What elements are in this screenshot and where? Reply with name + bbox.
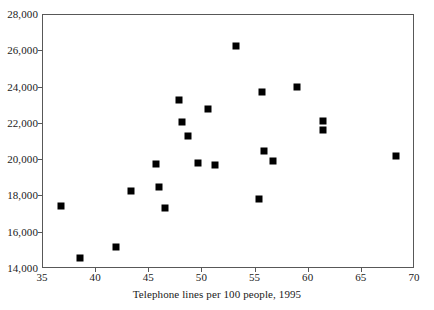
y-axis-tick-mark [38, 195, 43, 196]
data-point [195, 159, 202, 166]
x-axis-tick-labels: 3540455055606570 [0, 271, 434, 287]
x-axis-tick-label: 55 [249, 271, 260, 283]
data-point [233, 42, 240, 49]
data-point [176, 97, 183, 104]
y-axis-tick-mark [38, 159, 43, 160]
y-axis-tick-mark [38, 87, 43, 88]
x-axis-tick-label: 35 [36, 271, 47, 283]
data-point [258, 89, 265, 96]
data-point [212, 161, 219, 168]
plot-area [42, 14, 414, 268]
data-point [162, 205, 169, 212]
data-point [155, 184, 162, 191]
x-axis-tick-label: 70 [408, 271, 419, 283]
y-axis-tick-mark [38, 232, 43, 233]
y-axis-tick-label: 28,000 [7, 8, 38, 20]
data-point [319, 127, 326, 134]
scatter-plot-figure: 14,00016,00018,00020,00022,00024,00026,0… [0, 0, 434, 310]
x-axis-tick-label: 60 [302, 271, 313, 283]
data-point [319, 118, 326, 125]
y-axis-tick-labels: 14,00016,00018,00020,00022,00024,00026,0… [0, 0, 38, 310]
x-axis-tick-label: 45 [143, 271, 154, 283]
x-axis-title: Telephone lines per 100 people, 1995 [0, 288, 434, 300]
y-axis-tick-label: 20,000 [7, 153, 38, 165]
y-axis-tick-label: 16,000 [7, 226, 38, 238]
data-point [204, 106, 211, 113]
data-point [113, 244, 120, 251]
data-point [184, 132, 191, 139]
data-point [179, 119, 186, 126]
y-axis-tick-label: 24,000 [7, 81, 38, 93]
data-point [269, 158, 276, 165]
data-point [392, 152, 399, 159]
y-axis-tick-mark [38, 50, 43, 51]
data-point [128, 187, 135, 194]
x-axis-tick-label: 65 [355, 271, 366, 283]
x-axis-tick-label: 50 [196, 271, 207, 283]
x-axis-tick-label: 40 [90, 271, 101, 283]
y-axis-tick-mark [38, 123, 43, 124]
y-axis-tick-label: 22,000 [7, 117, 38, 129]
data-point [77, 255, 84, 262]
y-axis-tick-label: 18,000 [7, 189, 38, 201]
y-axis-tick-label: 26,000 [7, 44, 38, 56]
data-point [261, 148, 268, 155]
data-point [255, 196, 262, 203]
data-point [152, 160, 159, 167]
data-point [58, 203, 65, 210]
data-point [294, 83, 301, 90]
